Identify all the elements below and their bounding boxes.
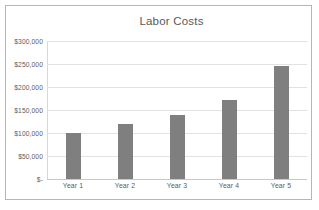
chart-title: Labor Costs	[6, 15, 311, 27]
bar	[170, 115, 185, 179]
chart-container: Labor Costs $-$50,000$100,000$150,000$20…	[5, 5, 312, 200]
x-axis-tick-label: Year 4	[203, 182, 255, 189]
gridline	[47, 64, 307, 65]
plot-area	[47, 41, 307, 179]
chart-title-text: Labor Costs	[113, 15, 203, 27]
x-axis-line	[47, 179, 307, 180]
x-axis-tick-label: Year 1	[47, 182, 99, 189]
y-axis-tick-label: $50,000	[18, 153, 43, 160]
y-axis-tick-label: $300,000	[14, 38, 43, 45]
bar	[66, 133, 81, 179]
x-axis-tick-label: Year 3	[151, 182, 203, 189]
y-axis-tick-label: $-	[37, 176, 43, 183]
bar	[274, 66, 289, 179]
bar	[118, 124, 133, 179]
gridline	[47, 87, 307, 88]
gridline	[47, 41, 307, 42]
y-axis-tick-label: $250,000	[14, 61, 43, 68]
bar	[222, 100, 237, 179]
y-axis-tick-label: $200,000	[14, 84, 43, 91]
y-axis-tick-label: $150,000	[14, 107, 43, 114]
y-axis-labels: $-$50,000$100,000$150,000$200,000$250,00…	[6, 41, 43, 179]
x-axis-tick-label: Year 5	[255, 182, 307, 189]
x-axis-tick-label: Year 2	[99, 182, 151, 189]
x-axis-labels: Year 1Year 2Year 3Year 4Year 5	[47, 182, 307, 198]
y-axis-tick-label: $100,000	[14, 130, 43, 137]
gridline	[47, 110, 307, 111]
